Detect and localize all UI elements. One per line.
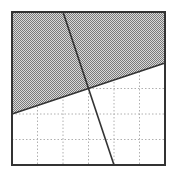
inequality-diagram [0,0,175,177]
diagram-canvas [0,0,175,177]
